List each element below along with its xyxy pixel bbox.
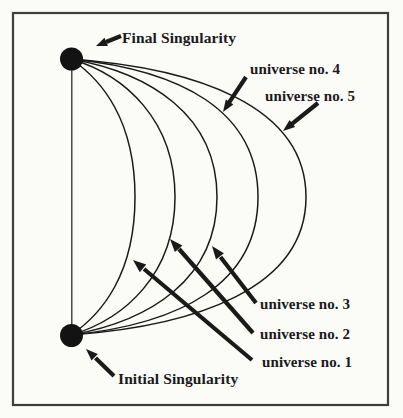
universe-3-label: universe no. 3 [260,296,350,312]
universe-5-arrow-icon [283,103,318,131]
figure-page: Final Singularity Initial Singularity un… [0,0,403,418]
universe-4-arrow-icon [223,77,246,112]
universe-4-label: universe no. 4 [250,61,341,77]
universe-curve-3 [71,59,217,335]
universe-5-label: universe no. 5 [265,88,355,104]
annotation-arrows [86,36,318,376]
oscillating-universes-diagram: Final Singularity Initial Singularity un… [0,0,403,418]
final-singularity-arrow-icon [96,36,121,46]
universe-1-label: universe no. 1 [262,354,352,370]
initial-singularity-label: Initial Singularity [118,370,238,387]
final-singularity-dot [60,48,83,71]
universe-2-label: universe no. 2 [260,326,350,342]
universe-curve-1 [71,59,135,335]
universe-curve-2 [71,59,175,335]
initial-singularity-arrow-icon [86,349,114,376]
initial-singularity-dot [60,324,83,347]
final-singularity-label: Final Singularity [122,29,236,46]
